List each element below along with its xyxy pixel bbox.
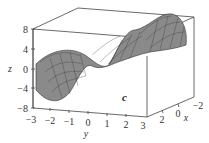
z-axis-label: z <box>7 63 12 74</box>
y-axis-ticks <box>50 108 126 117</box>
y-tick-neg3: −3 <box>26 114 37 125</box>
surface-plot: 8 4 0 −4 −8 z −3 −2 −1 0 1 2 3 y 2 0 −2 … <box>0 0 209 143</box>
z-tick-4: 4 <box>23 44 28 55</box>
x-tick-2: 2 <box>160 114 165 125</box>
y-tick-neg1: −1 <box>64 116 75 127</box>
z-tick-neg8: −8 <box>17 103 28 114</box>
x-axis-label: x <box>183 112 189 123</box>
x-tick-neg2: −2 <box>193 100 204 111</box>
x-tick-0: 0 <box>176 108 181 119</box>
y-tick-2: 2 <box>124 119 129 130</box>
panel-label: c <box>122 91 127 103</box>
y-tick-0: 0 <box>86 117 91 128</box>
z-tick-neg4: −4 <box>17 83 28 94</box>
y-tick-3: 3 <box>141 120 146 131</box>
surface <box>36 14 186 101</box>
y-tick-neg2: −2 <box>45 115 56 126</box>
z-axis <box>31 29 35 108</box>
z-tick-0: 0 <box>23 64 28 75</box>
y-axis-label: y <box>83 128 89 139</box>
z-tick-8: 8 <box>23 24 28 35</box>
y-tick-1: 1 <box>105 118 110 129</box>
